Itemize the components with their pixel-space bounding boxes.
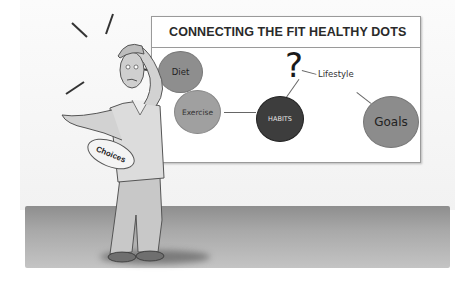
node-goals-label: Goals (374, 115, 408, 129)
node-habits-label: HABITS (268, 115, 292, 123)
lifestyle-label: Lifestyle (318, 69, 354, 79)
node-exercise-label: Exercise (182, 108, 213, 117)
connector-question-lifestyle (302, 70, 317, 75)
board-header: CONNECTING THE FIT HEALTHY DOTS (152, 17, 420, 48)
node-exercise: Exercise (174, 90, 221, 134)
connector-lifestyle-goals (356, 92, 371, 104)
board-title: CONNECTING THE FIT HEALTHY DOTS (169, 25, 406, 39)
node-goals: Goals (363, 96, 419, 148)
connector-exercise-habits (224, 112, 256, 113)
question-mark: ? (285, 45, 303, 85)
node-habits: HABITS (256, 96, 304, 142)
whiteboard: CONNECTING THE FIT HEALTHY DOTS Diet Exe… (151, 16, 421, 163)
choices-badge-label: Choices (95, 144, 127, 164)
